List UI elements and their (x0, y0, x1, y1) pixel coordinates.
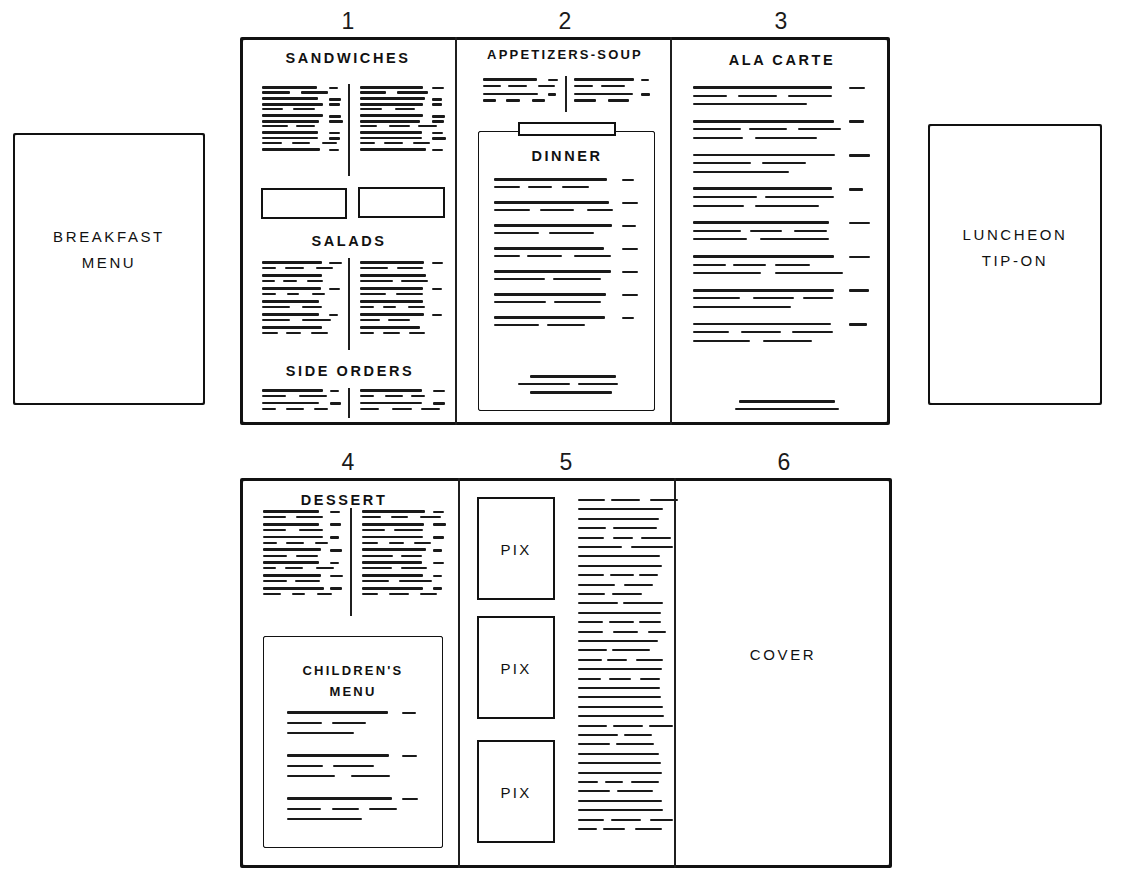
menu-text-line (755, 205, 819, 207)
menu-text-line (330, 549, 342, 552)
menu-text-line (362, 593, 378, 595)
menu-text-line (622, 271, 638, 274)
menu-text-line (775, 264, 810, 266)
menu-text-line (362, 580, 389, 582)
menu-text-line (605, 781, 624, 783)
menu-text-line (763, 340, 813, 342)
menu-text-line (432, 120, 444, 123)
luncheon-label-line2: TIP-ON (982, 252, 1048, 269)
column-rule (565, 76, 567, 112)
menu-text-line (578, 527, 606, 529)
menu-text-line (360, 137, 422, 140)
menu-text-line (650, 819, 673, 821)
bottom-row-divider-4-5 (458, 478, 460, 868)
menu-text-line (612, 593, 643, 595)
menu-text-line (631, 546, 674, 548)
menu-text-line (613, 527, 657, 529)
menu-text-line (402, 755, 417, 758)
menu-text-line (613, 725, 642, 727)
menu-text-line (299, 395, 327, 397)
menu-text-line (262, 408, 276, 410)
menu-text-line (518, 383, 570, 385)
menu-text-line (394, 529, 423, 531)
menu-text-line (362, 555, 393, 557)
menu-text-line (262, 120, 319, 123)
menu-text-line (693, 264, 726, 266)
panel-number-3: 3 (775, 8, 788, 35)
menu-text-line (299, 529, 323, 531)
breakfast-label-line2: MENU (82, 254, 137, 271)
menu-text-line (389, 542, 404, 544)
menu-text-line (578, 584, 615, 586)
heading-side-orders: SIDE ORDERS (286, 363, 415, 379)
menu-text-line (311, 332, 328, 334)
menu-text-line (360, 274, 426, 277)
menu-text-line (384, 142, 403, 144)
menu-text-line (506, 99, 519, 101)
menu-text-line (307, 280, 323, 282)
menu-text-line (530, 375, 616, 378)
menu-text-line (578, 640, 658, 642)
menu-text-line (263, 523, 319, 526)
menu-text-line (574, 93, 633, 96)
menu-text-line (262, 97, 318, 100)
menu-text-line (601, 85, 625, 87)
menu-text-line (263, 529, 286, 531)
menu-text-line (639, 621, 660, 623)
menu-text-line (360, 293, 386, 295)
menu-text-line (262, 332, 278, 334)
menu-text-line (286, 332, 301, 334)
menu-text-line (538, 85, 555, 87)
menu-text-line (360, 402, 422, 405)
menu-text-line (433, 402, 445, 405)
menu-text-line (635, 828, 662, 830)
menu-layout-diagram: BREAKFAST MENU LUNCHEON TIP-ON 1 2 3 SAN… (0, 0, 1131, 887)
menu-text-line (418, 125, 436, 127)
breakfast-menu-label: BREAKFAST MENU (53, 224, 165, 277)
menu-text-line (432, 98, 442, 101)
menu-text-line (432, 314, 442, 317)
menu-text-line (287, 732, 354, 734)
menu-text-line (262, 300, 319, 303)
blank-box-right[interactable] (358, 187, 445, 218)
pix-label-3: PIX (501, 784, 532, 801)
menu-text-line (330, 575, 343, 578)
menu-text-line (641, 537, 670, 539)
menu-text-line (330, 587, 342, 590)
menu-text-line (611, 819, 640, 821)
menu-text-line (578, 574, 604, 576)
menu-text-line (578, 715, 664, 717)
menu-text-line (432, 149, 443, 152)
menu-text-line (262, 267, 276, 269)
menu-text-line (578, 706, 663, 708)
menu-text-line (636, 659, 664, 661)
menu-text-line (548, 79, 558, 82)
menu-text-line (329, 115, 341, 118)
menu-text-line (578, 612, 661, 614)
menu-text-line (483, 99, 496, 101)
menu-text-line (508, 85, 526, 87)
menu-text-line (296, 516, 323, 518)
menu-text-line (433, 536, 444, 539)
menu-text-line (263, 516, 286, 518)
menu-text-line (762, 162, 806, 164)
top-row-divider-2-3 (670, 37, 672, 425)
panel-number-6: 6 (778, 449, 791, 476)
menu-text-line (262, 306, 290, 308)
menu-text-line (733, 264, 767, 266)
menu-text-line (578, 725, 607, 727)
menu-text-line (360, 131, 422, 134)
menu-text-line (362, 510, 425, 513)
menu-text-line (362, 561, 422, 564)
menu-text-line (360, 389, 422, 392)
menu-text-line (788, 95, 832, 97)
blank-box-left[interactable] (261, 188, 347, 219)
menu-text-line (316, 267, 333, 269)
menu-text-line (578, 621, 603, 623)
menu-text-line (262, 261, 322, 264)
menu-text-line (401, 280, 428, 282)
luncheon-tip-on-label: LUNCHEON TIP-ON (963, 222, 1068, 275)
top-row-divider-1-2 (455, 37, 457, 425)
menu-text-line (693, 95, 727, 97)
menu-text-line (360, 395, 374, 397)
